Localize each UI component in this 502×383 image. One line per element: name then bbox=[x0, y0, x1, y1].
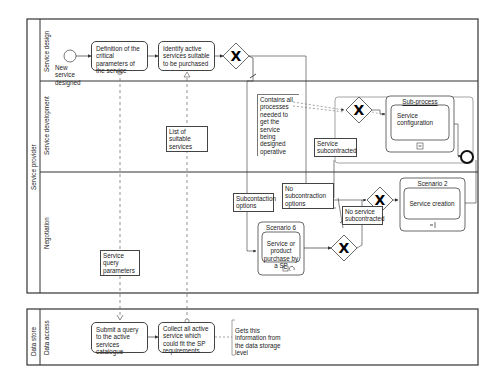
svg-text:X: X bbox=[354, 102, 365, 118]
condition-no-subcontraction-options: No subcontraction options bbox=[282, 183, 334, 209]
exclusive-gateway-3[interactable]: X bbox=[331, 235, 357, 261]
lane-label-negotiation: Negotiation bbox=[43, 217, 50, 249]
annotation-contains-processes: Contains all processes needed to get the… bbox=[257, 94, 299, 156]
pool-label-service-provider: Service provider bbox=[30, 145, 37, 191]
scenario-2-task[interactable]: Service creation bbox=[404, 200, 460, 207]
task-definition-critical-parameters[interactable]: Definition of the critical parameters of… bbox=[91, 41, 148, 71]
annotation-gets-information: Gets this information from the data stor… bbox=[233, 326, 283, 358]
svg-text:X: X bbox=[339, 240, 350, 256]
condition-service-subcontracted: Service subcontracted bbox=[314, 138, 357, 157]
lane-label-service-development: Service development bbox=[43, 96, 50, 155]
scenario-2-title: Scenario 2 bbox=[400, 180, 465, 187]
end-event[interactable] bbox=[461, 151, 473, 163]
task-collect-active-services[interactable]: Collect all active service which could f… bbox=[158, 322, 215, 353]
pool-label-data-store: Data store bbox=[30, 327, 37, 356]
start-event-label: New service designed bbox=[55, 64, 85, 86]
condition-subcontraction-options: Subcontaction options bbox=[233, 193, 274, 212]
scenario-6-task[interactable]: Service or product purchase by a SP bbox=[263, 240, 299, 270]
lane-label-data-access: Data access bbox=[43, 320, 50, 355]
exclusive-gateway-2[interactable]: X bbox=[346, 97, 372, 123]
task-submit-query[interactable]: Submit a query to the active services ca… bbox=[91, 322, 148, 353]
lane-label-service-design: Service design bbox=[43, 31, 50, 72]
svg-text:X: X bbox=[231, 48, 242, 64]
start-event[interactable] bbox=[64, 50, 76, 62]
data-object-list-suitable-services: List of suitable services bbox=[166, 126, 208, 152]
data-object-service-query-parameters: Service query parameters bbox=[100, 250, 140, 276]
subprocess-task-service-configuration[interactable]: Service configuration bbox=[397, 112, 443, 127]
subprocess-title: Sub-process bbox=[386, 98, 454, 105]
scenario-6-title: Scenario 6 bbox=[258, 224, 304, 231]
condition-no-service-subcontracted: No service subcontracted bbox=[342, 206, 383, 225]
task-identify-active-services[interactable]: Identify active services suitable to be … bbox=[158, 41, 215, 71]
exclusive-gateway-1[interactable]: X bbox=[223, 43, 249, 69]
